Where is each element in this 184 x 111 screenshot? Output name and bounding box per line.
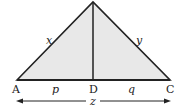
triangle-diagram: x y A p D q C z: [0, 0, 184, 111]
base-length-label-z: z: [89, 95, 96, 108]
vertex-label-c: C: [166, 83, 174, 96]
arrowhead-right-icon: [164, 99, 171, 104]
segment-label-q: q: [128, 83, 135, 96]
arrowhead-left-icon: [16, 99, 23, 104]
vertex-label-a: A: [11, 83, 21, 96]
segment-label-p: p: [52, 83, 59, 96]
side-label-x: x: [46, 34, 53, 47]
side-label-y: y: [135, 34, 143, 47]
